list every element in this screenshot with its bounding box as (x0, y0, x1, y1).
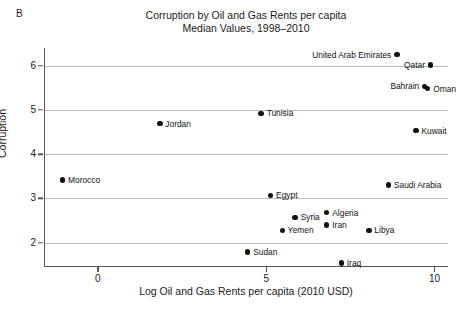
data-point-united-arab-emirates[interactable] (394, 52, 399, 57)
x-axis-ticks: 0510 (44, 267, 448, 287)
y-tick-mark-5 (38, 109, 43, 110)
data-point-label-morocco: Morocco (68, 176, 100, 184)
data-point-label-bahrain: Bahrain (390, 82, 419, 90)
data-point-qatar[interactable] (428, 62, 433, 67)
x-tick-mark-5 (266, 267, 267, 272)
x-tick-mark-0 (97, 267, 98, 272)
data-point-iran[interactable] (324, 222, 329, 227)
data-point-label-saudi-arabia: Saudi Arabia (394, 181, 442, 189)
data-point-tunisia[interactable] (258, 111, 263, 116)
data-point-oman[interactable] (425, 86, 430, 91)
data-point-label-oman: Oman (433, 84, 456, 92)
data-point-label-united-arab-emirates: United Arab Emirates (312, 50, 391, 58)
x-tick-label-0: 0 (95, 274, 101, 284)
y-tick-mark-2 (38, 242, 43, 243)
y-tick-mark-6 (38, 65, 43, 66)
data-point-morocco[interactable] (60, 177, 65, 182)
data-point-label-qatar: Qatar (404, 61, 425, 69)
data-point-algeria[interactable] (324, 210, 329, 215)
x-tick-label-10: 10 (429, 274, 440, 284)
data-point-libya[interactable] (366, 228, 371, 233)
gridline-y-3 (45, 198, 448, 199)
data-point-label-syria: Syria (301, 213, 320, 221)
data-point-label-tunisia: Tunisia (267, 109, 294, 117)
data-point-label-libya: Libya (374, 226, 394, 234)
panel-label: B (16, 9, 23, 19)
data-point-label-sudan: Sudan (253, 248, 277, 256)
data-point-label-egypt: Egypt (276, 191, 297, 199)
plot-area: United Arab EmiratesQatarBahrainOmanTuni… (45, 48, 448, 266)
gridline-y-6 (45, 66, 448, 67)
data-point-label-iraq: Iraq (347, 259, 361, 267)
data-point-iraq[interactable] (339, 260, 344, 265)
y-tick-mark-3 (38, 198, 43, 199)
x-axis-title: Log Oil and Gas Rents per capita (2010 U… (44, 286, 448, 297)
y-axis-title: Corruption (0, 109, 7, 158)
data-point-label-iran: Iran (332, 221, 346, 229)
data-point-sudan[interactable] (245, 249, 250, 254)
chart-title: Corruption by Oil and Gas Rents per capi… (44, 9, 448, 35)
plot-frame: United Arab EmiratesQatarBahrainOmanTuni… (44, 48, 448, 267)
data-point-saudi-arabia[interactable] (386, 182, 391, 187)
scatter-plot-figure: B Corruption by Oil and Gas Rents per ca… (0, 0, 456, 309)
data-point-label-algeria: Algeria (332, 208, 358, 216)
data-point-syria[interactable] (292, 215, 297, 220)
data-point-yemen[interactable] (280, 228, 285, 233)
data-point-egypt[interactable] (268, 193, 273, 198)
gridline-y-4 (45, 154, 448, 155)
gridline-y-5 (45, 110, 448, 111)
chart-title-line-1: Corruption by Oil and Gas Rents per capi… (44, 9, 448, 22)
chart-subtitle-line-2: Median Values, 1998–2010 (44, 22, 448, 35)
data-point-label-yemen: Yemen (288, 226, 314, 234)
data-point-kuwait[interactable] (413, 128, 418, 133)
x-tick-label-5: 5 (263, 274, 269, 284)
y-tick-mark-4 (38, 153, 43, 154)
data-point-jordan[interactable] (157, 121, 162, 126)
data-point-label-kuwait: Kuwait (422, 127, 447, 135)
gridline-y-2 (45, 243, 448, 244)
x-tick-mark-10 (434, 267, 435, 272)
data-point-label-jordan: Jordan (165, 119, 191, 127)
